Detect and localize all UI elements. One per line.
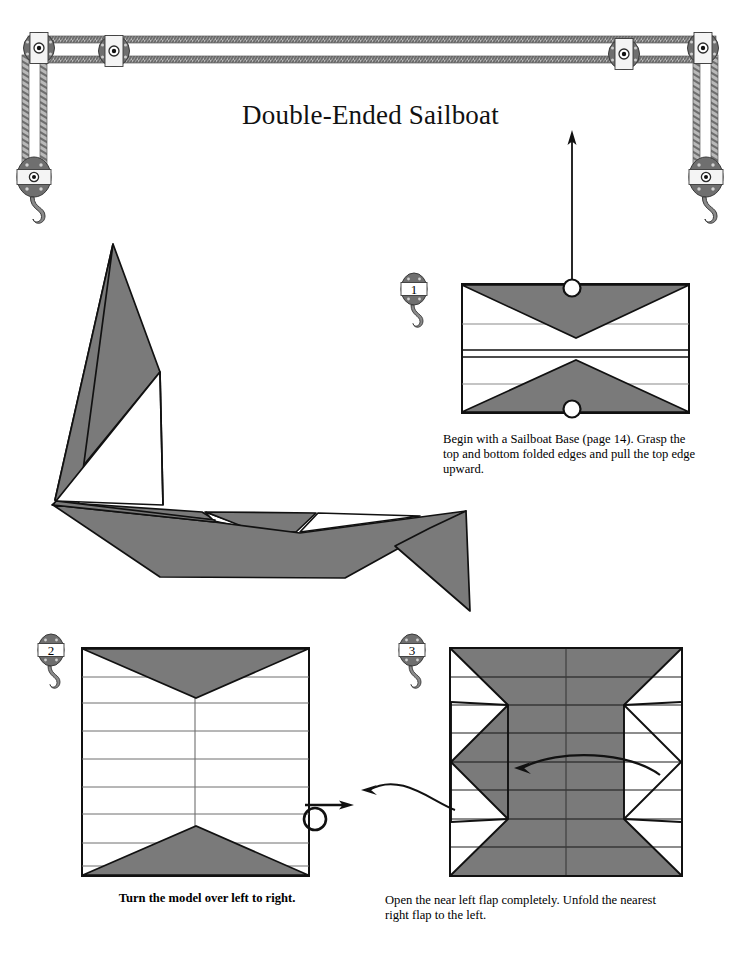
hull-inner-white-left — [205, 512, 255, 530]
hull-cockpit — [206, 512, 316, 532]
step-1-diagram — [462, 130, 689, 418]
left-point-edge — [451, 705, 508, 819]
left-chevron-edge — [451, 649, 508, 875]
grasp-circle-top — [564, 280, 581, 297]
finished-sailboat-illustration — [0, 0, 741, 959]
mainsail-shape — [55, 244, 160, 500]
hull-bow-sliver — [53, 501, 215, 522]
white-notch-left — [451, 702, 508, 822]
pulley-step-badge-1: 1 — [401, 273, 427, 327]
pulley-step-badge-3: 3 — [399, 634, 425, 688]
gray-triangle-top — [83, 649, 308, 698]
step-1-caption: Begin with a Sailboat Base (page 14). Gr… — [443, 432, 699, 478]
hull-stern-point — [395, 511, 470, 611]
page-title: Double-Ended Sailboat — [0, 100, 741, 131]
white-corner-tl — [451, 649, 508, 705]
gray-left-chevron — [451, 649, 566, 875]
right-chevron-edge — [624, 649, 681, 875]
white-wedge-left-lower — [451, 762, 508, 822]
step-3-number: 3 — [409, 643, 416, 658]
step-1-group: 1 — [0, 0, 741, 959]
hull-body — [53, 505, 466, 578]
header-decoration — [0, 0, 741, 959]
pulley-step-badge-2: 2 — [38, 634, 64, 688]
pull-up-arrow-head — [568, 130, 577, 145]
white-corner-tr — [624, 649, 681, 705]
pulley-top-left-corner — [24, 33, 55, 64]
gray-triangle-bottom — [462, 360, 689, 412]
rope-top — [28, 36, 716, 63]
white-corner-bl — [451, 819, 508, 875]
right-lower-notch-edge — [624, 819, 681, 822]
step-3-caption: Open the near left flap completely. Unfo… — [385, 893, 675, 923]
pulley-top-left-inner — [99, 36, 130, 67]
gray-triangle-top — [462, 285, 689, 338]
turn-over-arrow — [304, 801, 354, 831]
white-corner-br — [624, 819, 681, 875]
mast-line — [160, 372, 163, 505]
hull-deck-left — [52, 502, 215, 520]
step-2-caption: Turn the model over left to right. — [78, 891, 336, 906]
hull-inner-white-right — [300, 513, 420, 532]
step-2-diagram — [82, 648, 309, 876]
hook-block-left — [17, 157, 51, 223]
white-wedge-right-lower — [624, 762, 681, 822]
white-wedge-left-upper — [451, 702, 508, 762]
step-3-group: 3 — [0, 0, 741, 959]
step-2-number: 2 — [48, 643, 55, 658]
jib-shape — [56, 372, 163, 505]
left-upper-notch-edge — [451, 702, 508, 705]
gray-right-chevron — [566, 649, 681, 875]
pulley-top-right-corner — [688, 33, 719, 64]
right-point-edge — [624, 705, 681, 819]
open-left-flap-arrow — [361, 784, 455, 810]
hook-block-right — [689, 157, 723, 223]
white-wedge-right-upper — [624, 702, 681, 762]
page: Double-Ended Sailboat — [0, 0, 741, 959]
unfold-right-flap-arrow — [514, 755, 660, 775]
mainsail-lower-panel — [55, 244, 113, 508]
left-lower-notch-edge — [451, 819, 508, 822]
right-upper-notch-edge — [624, 702, 681, 705]
step-2-group: 2 — [0, 0, 741, 959]
pulley-top-right-inner — [609, 39, 640, 70]
gray-triangle-bottom — [83, 826, 308, 875]
step-1-number: 1 — [411, 282, 418, 297]
step-3-diagram — [450, 648, 682, 876]
grasp-circle-bottom — [564, 401, 581, 418]
